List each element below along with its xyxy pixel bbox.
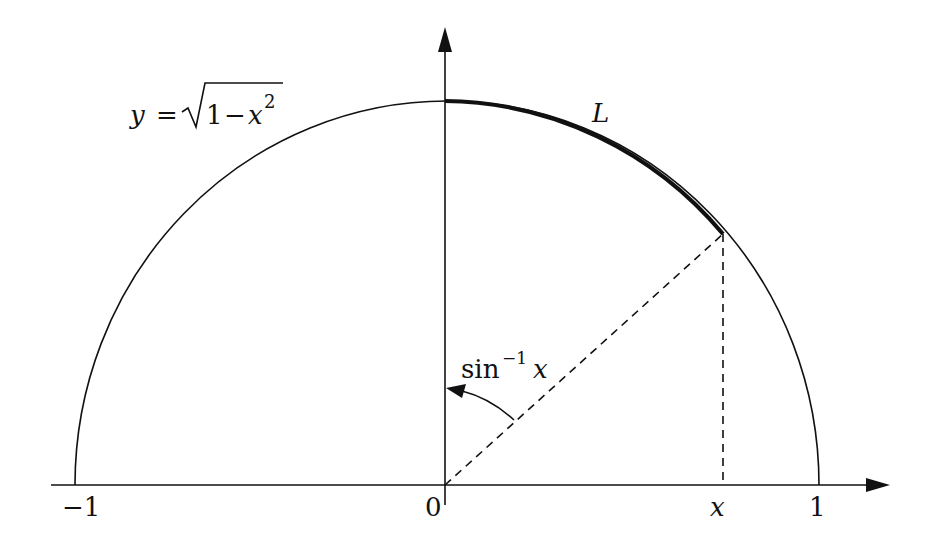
svg-text:x: x xyxy=(248,100,263,130)
y-axis-arrow-icon xyxy=(438,27,452,52)
svg-text:x: x xyxy=(533,354,548,384)
svg-text:y: y xyxy=(129,100,145,130)
svg-text:1: 1 xyxy=(206,100,223,130)
angle-arc xyxy=(462,391,514,420)
tick-label-neg-one: −1 xyxy=(62,492,100,522)
x-axis xyxy=(51,478,890,492)
svg-text:−: − xyxy=(224,100,246,130)
tick-label-one: 1 xyxy=(809,492,826,522)
svg-text:2: 2 xyxy=(264,91,275,112)
semicircle-diagram: y = 1 − x 2 L sin −1 x −1 0 x 1 xyxy=(0,0,933,549)
arc-label: L xyxy=(591,98,609,128)
tick-label-x: x xyxy=(710,492,725,522)
svg-text:=: = xyxy=(156,100,178,130)
curve-equation-label: y = 1 − x 2 xyxy=(129,83,283,130)
arc-length-L xyxy=(445,101,723,234)
tick-label-zero: 0 xyxy=(425,492,442,522)
semicircle-curve xyxy=(75,101,819,485)
svg-text:−1: −1 xyxy=(502,348,527,368)
angle-arrow-icon xyxy=(446,384,466,398)
x-axis-arrow-icon xyxy=(866,478,890,492)
svg-text:sin: sin xyxy=(461,354,500,384)
y-axis xyxy=(438,27,452,505)
angle-label: sin −1 x xyxy=(461,348,548,384)
